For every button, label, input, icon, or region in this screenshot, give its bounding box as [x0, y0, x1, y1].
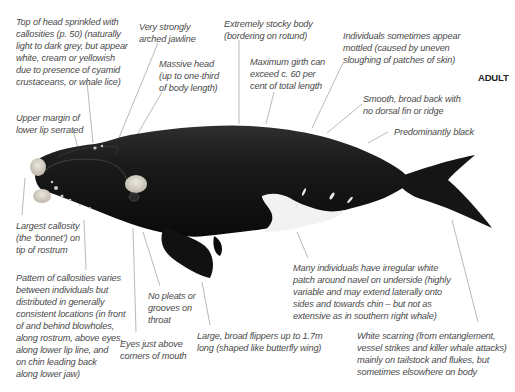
label-white-scarring: White scarring (from entanglement, vesse… [357, 330, 507, 378]
label-massive-head: Massive head (up to one-third of body le… [159, 58, 219, 94]
label-stocky-body: Extremely stocky body (bordering on rotu… [224, 18, 313, 42]
label-top-of-head: Top of head sprinkled with callosities (… [16, 16, 128, 88]
label-flippers: Large, broad flippers up to 1.7m long (s… [197, 330, 322, 354]
lip-callosity [33, 189, 51, 203]
label-no-pleats: No pleats or grooves on throat [148, 290, 196, 326]
label-pattern-callosities: Pattern of callosities varies between in… [16, 272, 125, 380]
bonnet-callosity [30, 158, 46, 176]
label-largest-callosity: Largest callosity (the ‘bonnet’) on tip … [16, 220, 80, 256]
label-mottled: Individuals sometimes appear mottled (ca… [343, 30, 460, 66]
flipper-stub [213, 236, 222, 256]
label-smooth-back: Smooth, broad back with no dorsal fin or… [363, 93, 461, 117]
label-eyes: Eyes just above corners of mouth [120, 338, 187, 362]
age-class-title: ADULT [478, 72, 508, 83]
tail-flukes [395, 155, 492, 228]
label-white-patch: Many individuals have irregular white pa… [293, 262, 451, 322]
label-upper-margin: Upper margin of lower lip serrated [16, 112, 83, 136]
label-predominantly-black: Predominantly black [394, 126, 474, 138]
eye-callosity [125, 175, 147, 193]
label-max-girth: Maximum girth can exceed c. 60 per cent … [250, 56, 325, 92]
whale-body [35, 125, 412, 236]
eye [129, 193, 139, 201]
label-jawline: Very strongly arched jawline [139, 21, 196, 45]
